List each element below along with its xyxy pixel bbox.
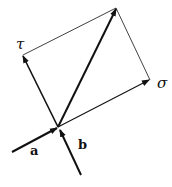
- tau-label: τ: [16, 37, 24, 52]
- diagram-canvas: [0, 0, 172, 187]
- tau-vector-arrow: [23, 56, 58, 127]
- vector-diagram: τ σ a b: [0, 0, 172, 187]
- sigma-vector-arrow: [58, 80, 149, 127]
- edge-tau-to-apex: [23, 8, 116, 55]
- b-label: b: [78, 138, 87, 151]
- edge-apex-to-sigma: [116, 8, 150, 80]
- a-label: a: [30, 144, 38, 157]
- resultant-vector-arrow: [58, 9, 116, 127]
- sigma-label: σ: [157, 76, 167, 91]
